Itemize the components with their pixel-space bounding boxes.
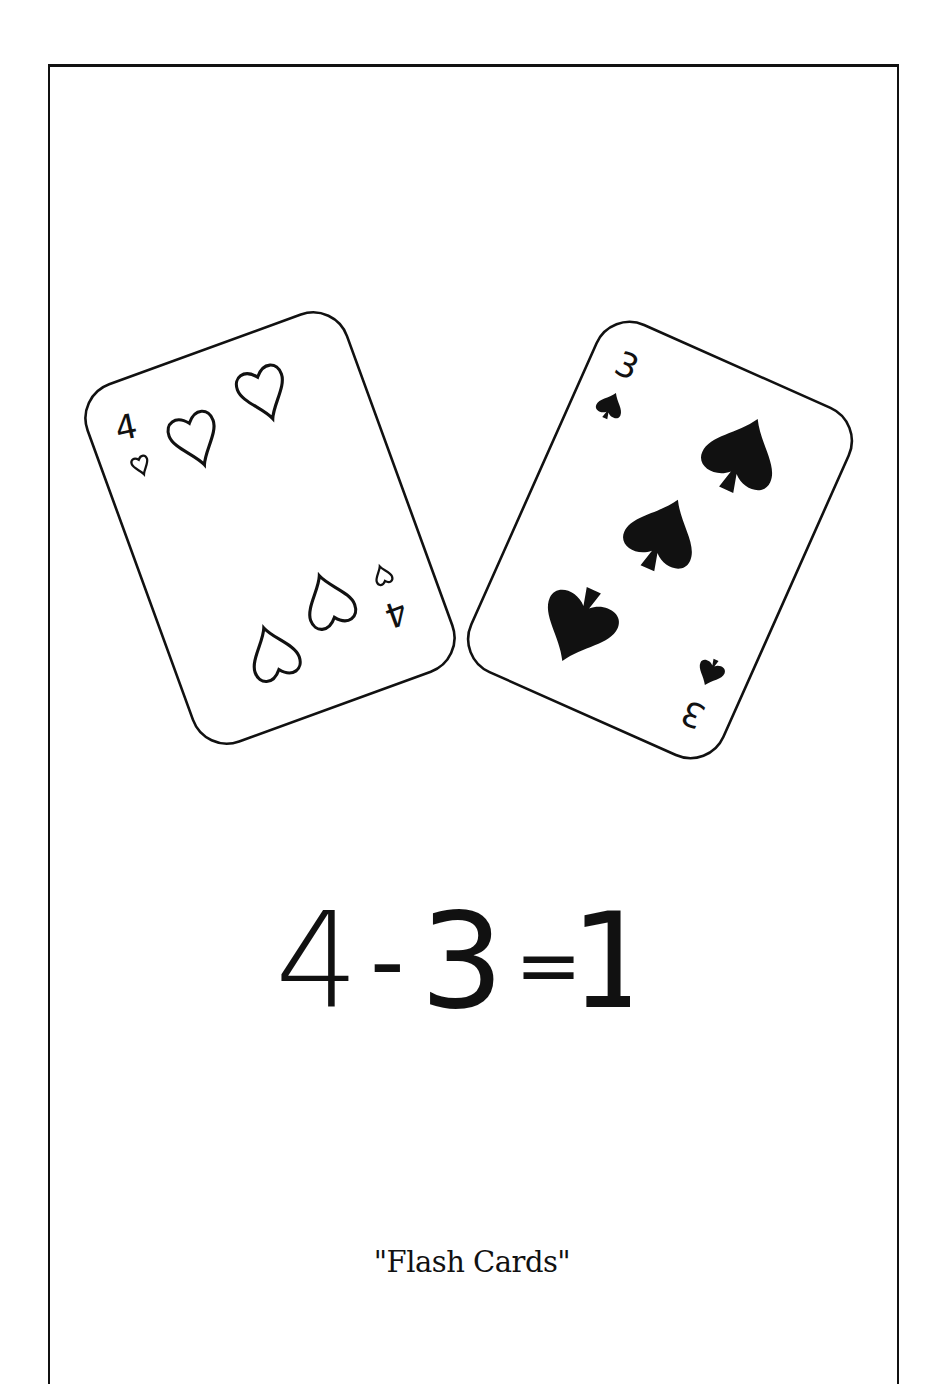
card-four-of-hearts: 4 4 [75, 302, 464, 753]
equation-operand-a: 4 [275, 895, 359, 1025]
card-three-of-spades: 3 3 [457, 310, 864, 769]
subtraction-equation: 4 - 3 = 1 [270, 895, 630, 1025]
caption: "Flash Cards" [0, 1245, 944, 1279]
equation-operand-b: 3 [420, 895, 504, 1025]
equation-operator: - [370, 906, 405, 1018]
equation-result: 1 [570, 895, 630, 1025]
